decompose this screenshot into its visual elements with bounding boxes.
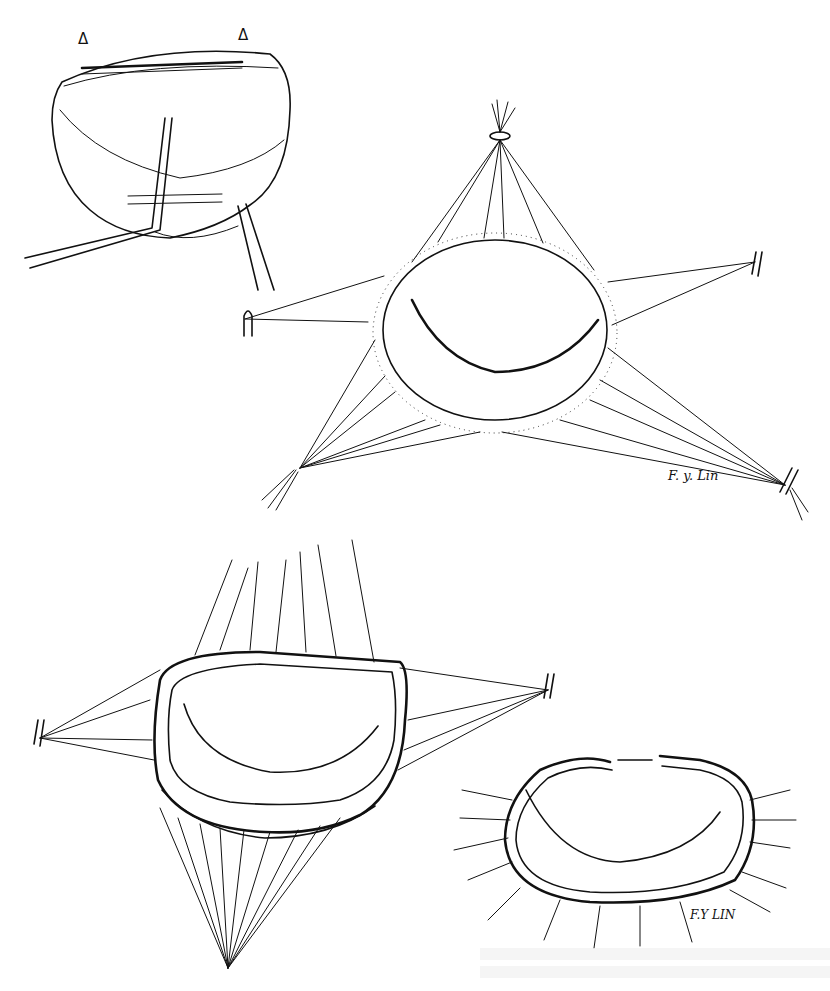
panel-a-annulus-with-forceps (25, 51, 290, 290)
panel-d-completed-ring (454, 756, 796, 948)
bleedthrough-band (480, 966, 830, 978)
triangle-marker-left: Δ (78, 30, 88, 48)
panel-c-ring-sutured (34, 540, 554, 968)
surgical-illustration (0, 0, 830, 991)
bleedthrough-band (480, 948, 830, 960)
panel-b-valve-traction (244, 100, 808, 520)
triangle-marker-right: Δ (238, 26, 248, 44)
signature-panel-b: F. y. Lin (668, 468, 718, 483)
signature-panel-d: F.Y LIN (690, 908, 735, 922)
